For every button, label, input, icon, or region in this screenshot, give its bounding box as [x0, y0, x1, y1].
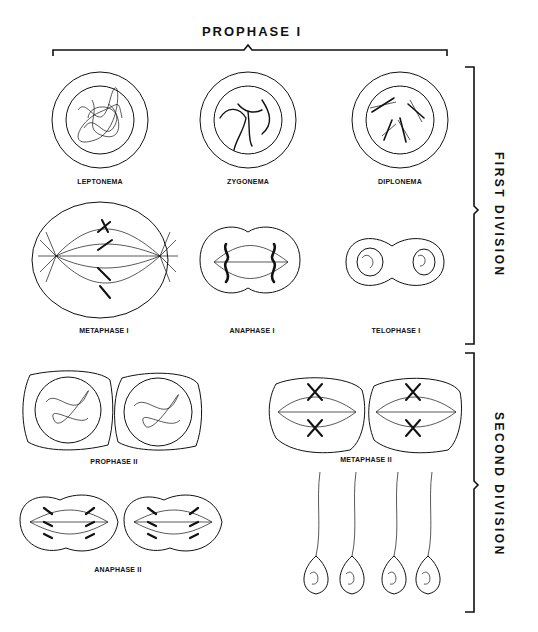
label-anaphase-i: ANAPHASE I [229, 327, 274, 334]
first-division-label: FIRST DIVISION [492, 152, 506, 278]
label-diplonema: DIPLONEMA [378, 178, 422, 185]
meiosis-diagram-artwork [0, 0, 538, 632]
label-metaphase-i: METAPHASE I [79, 327, 129, 334]
prophase-ii-cells [23, 371, 202, 450]
first-division-bracket [465, 67, 478, 344]
second-division-bracket [465, 353, 478, 612]
zygonema-cell [200, 72, 296, 168]
label-anaphase-ii: ANAPHASE II [94, 566, 141, 573]
diplonema-cell [352, 72, 448, 168]
telophase-i-cell [346, 239, 444, 286]
label-leptonema: LEPTONEMA [77, 178, 123, 185]
anaphase-ii-cells [20, 495, 222, 551]
leptonema-cell [52, 72, 148, 168]
metaphase-ii-cells [269, 378, 461, 453]
metaphase-i-cell [32, 202, 178, 318]
label-prophase-ii: PROPHASE II [90, 458, 137, 465]
prophase-i-bracket [53, 45, 447, 56]
label-telophase-i: TELOPHASE I [372, 327, 421, 334]
second-division-label: SECOND DIVISION [492, 412, 506, 557]
label-metaphase-ii: METAPHASE II [340, 456, 392, 463]
anaphase-i-cell [200, 227, 300, 293]
spermatid-cells [304, 472, 440, 594]
label-zygonema: ZYGONEMA [227, 178, 269, 185]
prophase-i-title: PROPHASE I [202, 24, 302, 39]
